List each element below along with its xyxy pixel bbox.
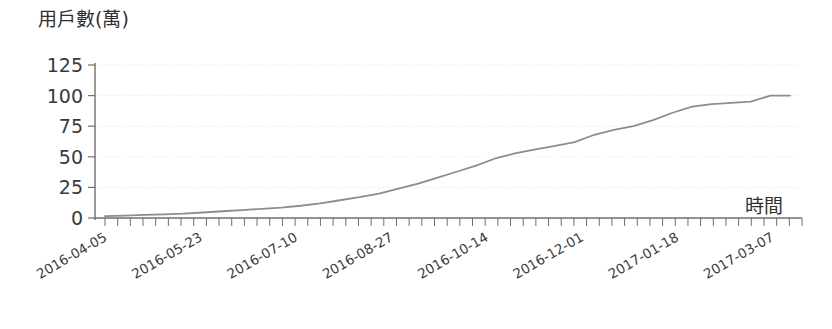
chart-container: 0255075100125 2016-04-052016-05-232016-0… bbox=[0, 0, 832, 329]
x-tick-label: 2016-07-10 bbox=[224, 229, 300, 282]
y-axis-ticks bbox=[88, 65, 95, 218]
y-axis-title: 用戶數(萬) bbox=[38, 8, 129, 30]
y-tick-label-25: 25 bbox=[59, 176, 83, 198]
x-axis: 2016-04-052016-05-232016-07-102016-08-27… bbox=[34, 218, 802, 282]
x-tick-label: 2016-05-23 bbox=[129, 229, 205, 282]
series-line-user-count bbox=[105, 96, 790, 217]
line-chart: 0255075100125 2016-04-052016-05-232016-0… bbox=[0, 0, 832, 329]
y-tick-label-125: 125 bbox=[47, 54, 83, 76]
x-tick-label: 2016-12-01 bbox=[510, 229, 586, 282]
x-tick-label: 2016-08-27 bbox=[319, 229, 395, 282]
x-axis-tick-labels: 2016-04-052016-05-232016-07-102016-08-27… bbox=[34, 229, 777, 282]
gridlines-group bbox=[95, 65, 800, 218]
y-axis: 0255075100125 bbox=[47, 54, 95, 229]
y-axis-tick-labels: 0255075100125 bbox=[47, 54, 83, 229]
x-tick-label: 2016-10-14 bbox=[415, 229, 491, 282]
y-tick-label-0: 0 bbox=[71, 207, 83, 229]
y-tick-label-75: 75 bbox=[59, 115, 83, 137]
x-tick-label: 2017-03-07 bbox=[701, 229, 777, 282]
x-tick-label: 2017-01-18 bbox=[605, 229, 681, 282]
x-axis-minor-ticks bbox=[105, 218, 802, 226]
y-tick-label-100: 100 bbox=[47, 85, 83, 107]
x-axis-title: 時間 bbox=[745, 195, 783, 217]
x-tick-label: 2016-04-05 bbox=[34, 229, 110, 282]
y-tick-label-50: 50 bbox=[59, 146, 83, 168]
